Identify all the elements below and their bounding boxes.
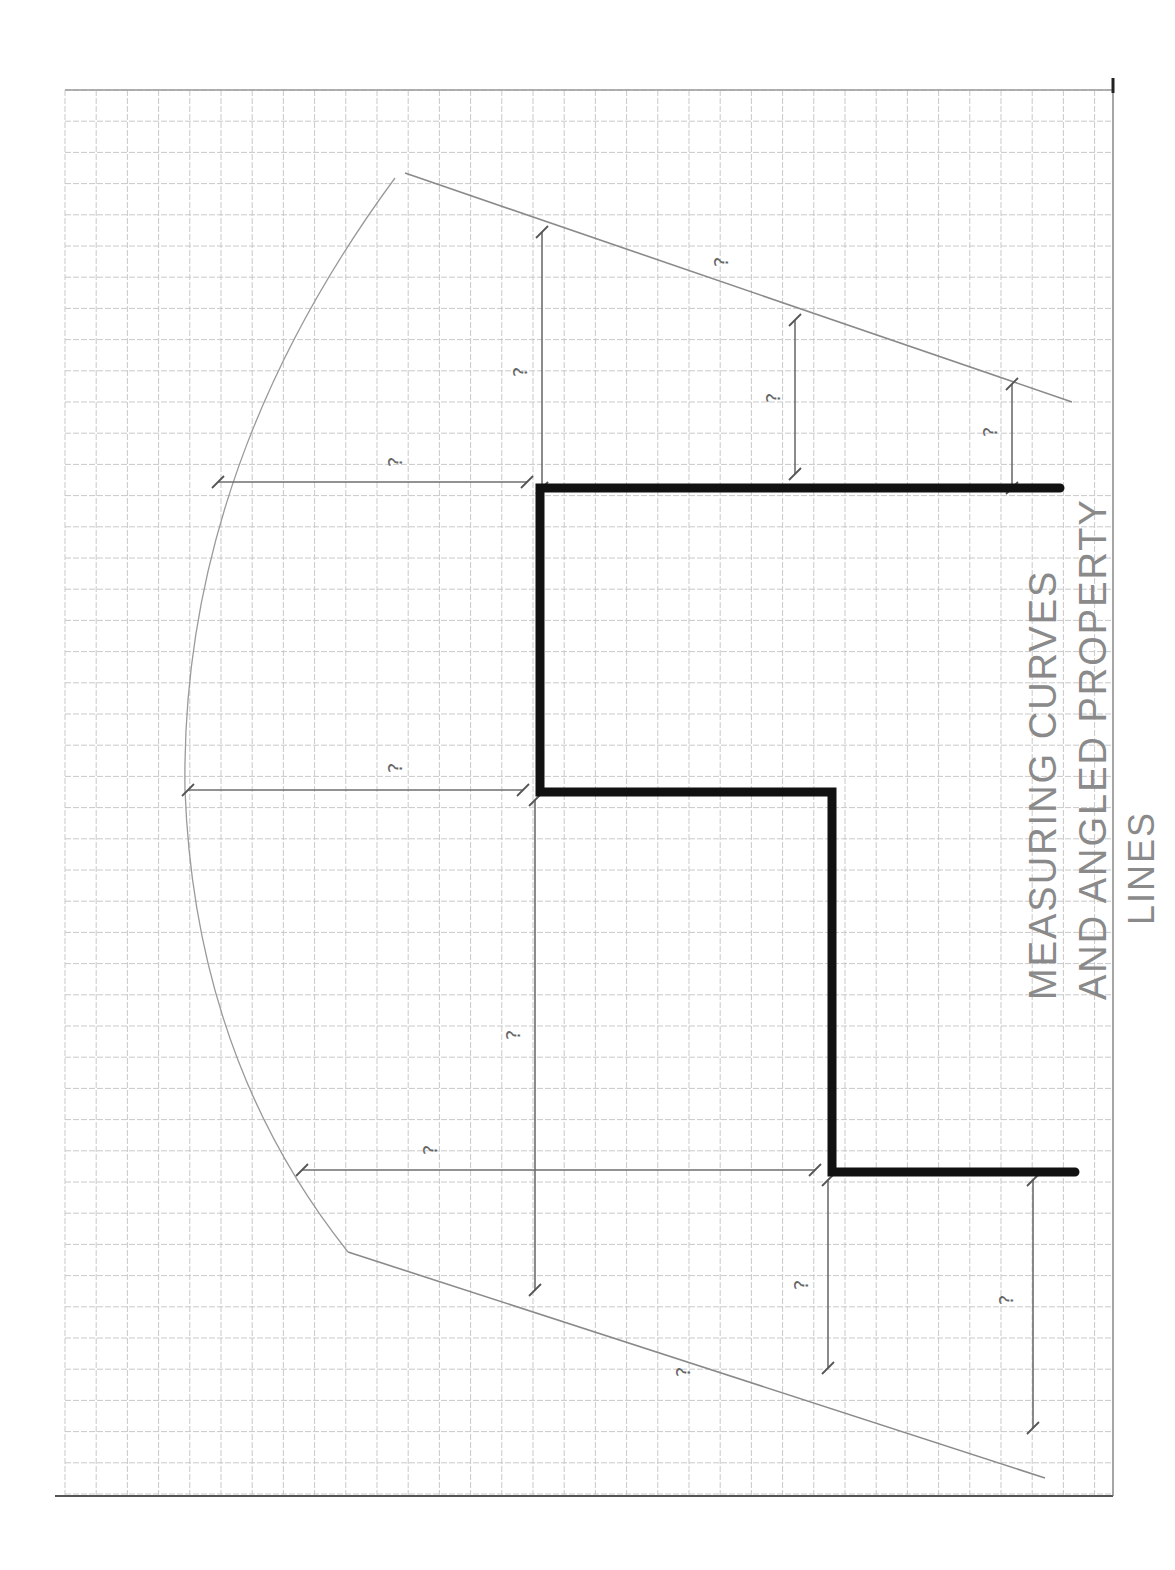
dimension-label: ? bbox=[789, 1280, 813, 1291]
dimension-label: ? bbox=[508, 367, 532, 378]
title-line-1: MEASURING CURVES bbox=[1018, 498, 1068, 1000]
dimension-label: ? bbox=[994, 1295, 1018, 1306]
dimension-label: ? bbox=[761, 393, 785, 404]
title-line-2: AND ANGLED PROPERTY bbox=[1068, 498, 1118, 1000]
title-line-3: LINES bbox=[1118, 498, 1166, 1000]
dimension-label: ? bbox=[383, 457, 407, 468]
dimension-label: ? bbox=[501, 1030, 525, 1041]
dimension-label: ? bbox=[418, 1145, 442, 1156]
dimension-label: ? bbox=[671, 1367, 695, 1378]
diagram-title: MEASURING CURVES AND ANGLED PROPERTY LIN… bbox=[1018, 498, 1166, 1000]
dimension-label: ? bbox=[709, 257, 733, 268]
dimension-label: ? bbox=[978, 427, 1002, 438]
dimension-label: ? bbox=[383, 763, 407, 774]
graph-paper-sheet: ??????????? bbox=[0, 0, 1175, 1570]
